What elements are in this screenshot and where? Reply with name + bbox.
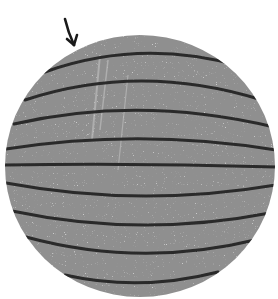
sphere-drawing [0, 0, 278, 299]
pointer-arrow-icon [65, 19, 77, 45]
